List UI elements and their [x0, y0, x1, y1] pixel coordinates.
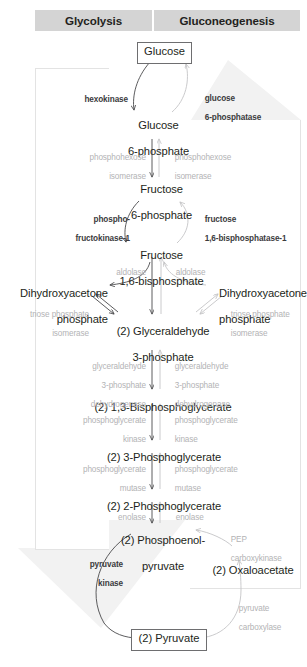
enzyme-phosphoglycerate-mutase-gluconeogenesis: phosphoglycerate mutase	[166, 455, 278, 503]
enzyme-fructose-1-6-bisphosphatase-1: fructose 1,6-bisphosphatase-1	[196, 205, 307, 253]
enzyme-aldolase-glycolysis: aldolase	[82, 258, 146, 287]
enzyme-phosphohexose-isomerase-gluconeogenesis: phosphohexose isomerase	[166, 143, 276, 191]
metabolite-pyruvate-box: (2) Pyruvate	[131, 629, 207, 651]
enzyme-phosphohexose-isomerase-glycolysis: phosphohexose isomerase	[50, 143, 146, 191]
enzyme-enolase-gluconeogenesis: enolase	[167, 503, 227, 532]
enzyme-triose-phosphate-isomerase-glycolysis: triose phosphate isomerase	[5, 300, 89, 348]
enzyme-aldolase-gluconeogenesis: aldolase	[167, 258, 231, 287]
enzyme-triose-phosphate-isomerase-gluconeogenesis: triose phosphate isomerase	[222, 300, 307, 348]
enzyme-enolase-glycolysis: enolase	[86, 503, 146, 532]
arrow-glucose-6-phosphatase	[172, 64, 187, 112]
enzyme-hexokinase: hexokinase	[38, 85, 128, 114]
pathway-diagram: Glycolysis Gluconeogenesis	[0, 0, 307, 667]
enzyme-pep-carboxykinase: PEP carboxykinase	[222, 525, 306, 573]
enzyme-pyruvate-carboxylase: pyruvate carboxylase	[230, 594, 307, 642]
metabolite-pyruvate-label: (2) Pyruvate	[139, 632, 200, 644]
enzyme-pyruvate-kinase: pyruvate kinase	[35, 550, 123, 598]
arrow-hexokinase	[134, 62, 150, 110]
enzyme-glucose-6-phosphatase: glucose 6-phosphatase	[196, 84, 296, 132]
enzyme-phosphofructokinase-1: phospho- fructokinase-1	[18, 205, 130, 253]
enzyme-phosphoglycerate-kinase-glycolysis: phosphoglycerate kinase	[44, 406, 146, 454]
metabolite-glucose-label: Glucose	[144, 45, 185, 57]
metabolite-glucose-box: Glucose	[137, 42, 192, 64]
enzyme-phosphoglycerate-mutase-glycolysis: phosphoglycerate mutase	[44, 455, 146, 503]
enzyme-phosphoglycerate-kinase-gluconeogenesis: phosphoglycerate kinase	[166, 406, 278, 454]
